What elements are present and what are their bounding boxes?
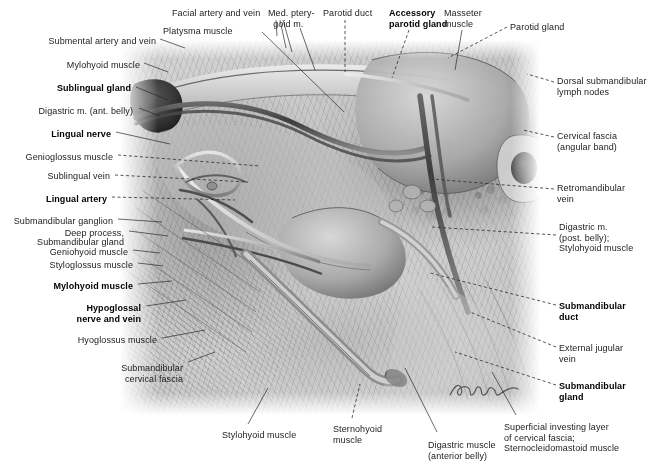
label-lingual-artery: Lingual artery	[46, 194, 107, 205]
anatomical-illustration	[120, 40, 540, 415]
label-hyoglossus-muscle: Hyoglossus muscle	[78, 335, 157, 346]
label-platysma-muscle: Platysma muscle	[163, 26, 233, 37]
anatomy-plate: Facial artery and veinMed. ptery- goid m…	[0, 0, 656, 469]
label-external-jugular-vein: External jugular vein	[559, 343, 623, 364]
label-masseter-muscle: Masseter muscle	[444, 8, 482, 29]
label-sublingual-gland: Sublingual gland	[57, 83, 131, 94]
label-submandibular-duct: Submandibular duct	[559, 301, 626, 322]
label-submandibular-cervical-fascia: Submandibular cervical fascia	[121, 363, 183, 384]
label-sublingual-vein: Sublingual vein	[47, 171, 110, 182]
label-mylohyoid-muscle-upper: Mylohyoid muscle	[67, 60, 140, 71]
label-stylohyoid-muscle: Stylohyoid muscle	[222, 430, 296, 441]
illustration-edge-feather	[120, 40, 540, 415]
label-med-pterygoid-muscle: Med. ptery- goid m.	[268, 8, 315, 29]
artist-signature	[448, 378, 520, 402]
label-hypoglossal-nerve-and-vein: Hypoglossal nerve and vein	[77, 303, 141, 324]
label-geniohyoid-muscle: Geniohyoid muscle	[50, 247, 128, 258]
label-submental-artery-and-vein: Submental artery and vein	[48, 36, 156, 47]
label-digastric-muscle-ant-belly: Digastric muscle (anterior belly)	[428, 440, 496, 461]
label-retromandibular-vein: Retromandibular vein	[557, 183, 625, 204]
label-accessory-parotid-gland: Accessory parotid gland	[389, 8, 447, 29]
label-facial-artery-and-vein: Facial artery and vein	[172, 8, 260, 19]
label-digastric-post-belly-stylohyoid: Digastric m. (post. belly); Stylohyoid m…	[559, 222, 633, 254]
label-dorsal-submandibular-lymph-nodes: Dorsal submandibular lymph nodes	[557, 76, 647, 97]
label-submandibular-gland-left: Submandibular gland	[37, 237, 124, 248]
label-superficial-investing-layer: Superficial investing layer of cervical …	[504, 422, 619, 454]
label-submandibular-gland-right: Submandibular gland	[559, 381, 626, 402]
label-cervical-fascia-angular-band: Cervical fascia (angular band)	[557, 131, 617, 152]
label-parotid-gland: Parotid gland	[510, 22, 564, 33]
label-parotid-duct: Parotid duct	[323, 8, 372, 19]
label-styloglossus-muscle: Styloglossus muscle	[50, 260, 133, 271]
label-mylohyoid-muscle-bold: Mylohyoid muscle	[53, 281, 133, 292]
label-sternohyoid-muscle: Sternohyoid muscle	[333, 424, 382, 445]
label-genioglossus-muscle: Genioglossus muscle	[26, 152, 113, 163]
label-lingual-nerve: Lingual nerve	[51, 129, 111, 140]
label-digastric-m-ant-belly: Digastric m. (ant. belly)	[38, 106, 133, 117]
label-submandibular-ganglion: Submandibular ganglion	[14, 216, 113, 227]
